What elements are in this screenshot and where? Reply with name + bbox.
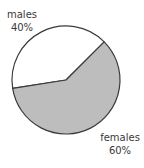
slice-label-males: males 40% [6,8,38,34]
slice-label-males-name: males [6,8,38,21]
slice-label-males-value: 40% [6,21,38,34]
slice-label-females-value: 60% [98,144,142,157]
pie-chart: males 40% females 60% [0,0,144,168]
slice-label-females-name: females [98,131,142,144]
slice-label-females: females 60% [98,131,142,157]
